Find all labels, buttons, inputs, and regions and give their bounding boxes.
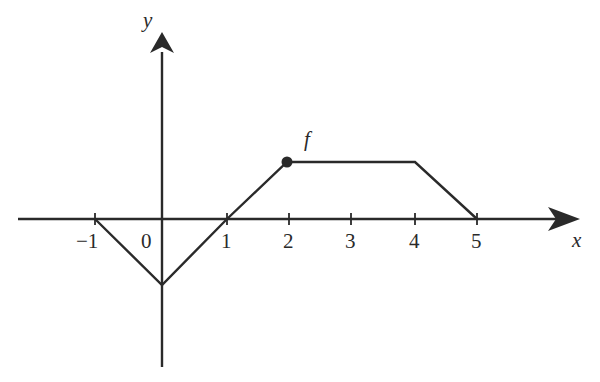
function-f-line xyxy=(95,162,477,285)
tick-label-1: 1 xyxy=(221,229,232,253)
y-axis-arrow-icon xyxy=(150,32,174,53)
y-axis-label: y xyxy=(141,8,153,32)
x-axis-label: x xyxy=(571,228,582,252)
function-label: f xyxy=(304,127,313,151)
tick-label-2: 2 xyxy=(283,229,294,253)
tick-label-0: 0 xyxy=(141,229,152,253)
function-graph: y x f −1 0 1 2 3 4 5 xyxy=(0,0,600,382)
tick-label-4: 4 xyxy=(409,229,420,253)
tick-label-3: 3 xyxy=(345,229,356,253)
filled-point-marker xyxy=(282,157,293,168)
tick-label-neg1: −1 xyxy=(76,229,98,253)
tick-label-5: 5 xyxy=(471,229,482,253)
